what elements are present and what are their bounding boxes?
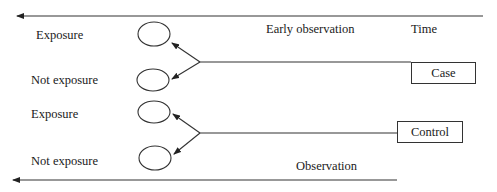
case-node: Case [411,62,476,84]
control-exposure-circle [138,101,170,123]
label-not-exposure-bottom: Not exposure [31,155,98,168]
case-not-exposure-circle [137,69,169,91]
label-exposure-bottom: Exposure [31,108,78,121]
label-exposure-top: Exposure [36,29,83,42]
control-not-exposure-circle [139,146,171,170]
label-early-observation: Early observation [266,23,355,36]
control-node-label: Control [411,125,449,140]
case-exposure-circle [138,22,170,46]
label-not-exposure-top: Not exposure [31,74,98,87]
label-time: Time [411,23,437,36]
control-node: Control [397,121,463,143]
case-branch-connector [172,43,411,79]
control-branch-connector [173,114,397,154]
case-node-label: Case [431,66,455,81]
label-observation: Observation [296,160,357,173]
